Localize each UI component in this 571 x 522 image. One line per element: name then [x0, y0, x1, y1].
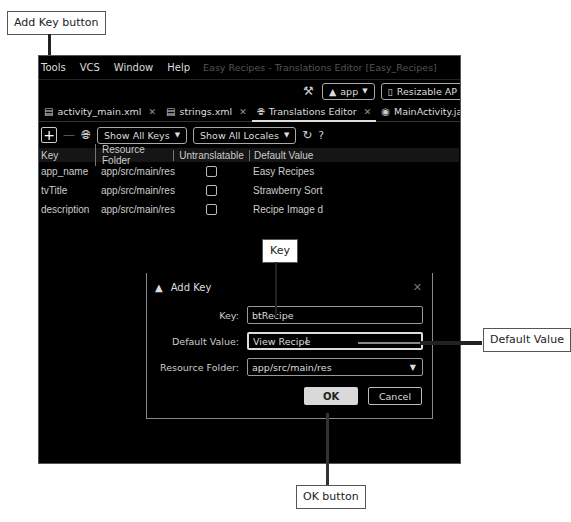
- chevron-down-icon: ▼: [284, 131, 289, 139]
- tab-label: Translations Editor: [269, 106, 357, 117]
- plus-icon: +: [43, 128, 55, 142]
- globe-icon: 🌐︎: [257, 106, 265, 118]
- refresh-icon[interactable]: ↻: [302, 128, 312, 142]
- key-input-value: btRecipe: [252, 310, 294, 321]
- callout-key: Key: [262, 239, 298, 263]
- close-icon[interactable]: ✕: [149, 107, 157, 117]
- close-icon[interactable]: ✕: [413, 281, 422, 294]
- resource-folder-row: Resource Folder: app/src/main/res ▼: [147, 357, 432, 377]
- cell-default-value[interactable]: Easy Recipes: [249, 166, 323, 177]
- add-key-button[interactable]: +: [41, 127, 57, 143]
- cell-untranslatable: [173, 204, 249, 215]
- callout-add-key-button: Add Key button: [7, 11, 106, 35]
- show-locales-dropdown[interactable]: Show All Locales ▼: [193, 127, 296, 144]
- default-value-row: Default Value: View Recipe I: [147, 331, 432, 351]
- table-row[interactable]: tvTitle app/src/main/res Strawberry Sort: [39, 181, 459, 200]
- values-file-icon: ▤: [166, 106, 175, 117]
- key-label: Key:: [147, 310, 247, 321]
- key-input[interactable]: btRecipe: [247, 306, 423, 324]
- tab-translations-editor[interactable]: 🌐︎ Translations Editor ✕: [252, 102, 376, 121]
- window-title: Easy Recipes - Translations Editor [Easy…: [203, 62, 437, 73]
- chevron-down-icon: ▼: [410, 363, 416, 372]
- resource-folder-select[interactable]: app/src/main/res ▼: [247, 358, 423, 376]
- dialog-header: ▲ Add Key ✕: [155, 279, 422, 295]
- ok-button[interactable]: OK: [304, 387, 358, 405]
- menu-bar: Tools VCS Window Help Easy Recipes - Tra…: [39, 56, 460, 80]
- cell-untranslatable: [173, 185, 249, 196]
- chevron-down-icon: ▼: [175, 131, 180, 139]
- show-locales-label: Show All Locales: [200, 130, 279, 141]
- column-header-untranslatable[interactable]: Untranslatable: [173, 150, 249, 161]
- close-icon[interactable]: ✕: [364, 107, 372, 117]
- menu-tools[interactable]: Tools: [39, 62, 73, 73]
- leader-line-default-value-thick: [420, 341, 482, 345]
- run-config-dropdown[interactable]: ▲ app ▼: [322, 83, 375, 100]
- remove-key-button[interactable]: —: [63, 128, 75, 142]
- add-locale-icon[interactable]: 🌐︎: [81, 128, 91, 142]
- show-keys-dropdown[interactable]: Show All Keys ▼: [97, 127, 187, 144]
- device-icon: ▯: [388, 86, 393, 97]
- table-row[interactable]: description app/src/main/res Recipe Imag…: [39, 200, 459, 219]
- tab-label: activity_main.xml: [57, 106, 141, 117]
- default-value-input[interactable]: View Recipe I: [247, 332, 423, 350]
- hammer-icon[interactable]: ⚒: [303, 84, 314, 98]
- tab-activity-main[interactable]: ▤ activity_main.xml ✕: [39, 102, 161, 121]
- column-header-default-value[interactable]: Default Value: [249, 150, 323, 161]
- untranslatable-checkbox[interactable]: [206, 185, 217, 196]
- show-keys-label: Show All Keys: [104, 130, 170, 141]
- translations-table: Key Resource Folder Untranslatable Defau…: [39, 148, 459, 219]
- chevron-down-icon: ▼: [362, 87, 367, 95]
- dialog-title: Add Key: [171, 282, 212, 293]
- editor-tabs: ▤ activity_main.xml ✕ ▤ strings.xml ✕ 🌐︎…: [39, 102, 460, 122]
- tab-strings[interactable]: ▤ strings.xml ✕: [161, 102, 252, 121]
- default-value-label: Default Value:: [147, 336, 247, 347]
- java-class-icon: ◉: [381, 106, 390, 117]
- column-header-resource-folder[interactable]: Resource Folder: [95, 144, 173, 166]
- menu-window[interactable]: Window: [107, 62, 160, 73]
- untranslatable-checkbox[interactable]: [206, 166, 217, 177]
- run-config-label: app: [340, 86, 358, 97]
- tab-main-activity[interactable]: ◉ MainActivity.java ✕: [376, 102, 461, 121]
- cell-key[interactable]: description: [39, 204, 95, 215]
- menu-vcs[interactable]: VCS: [73, 62, 107, 73]
- tab-label: strings.xml: [180, 106, 233, 117]
- translations-toolbar: + — 🌐︎ Show All Keys ▼ Show All Locales …: [39, 124, 460, 146]
- leader-line-key: [275, 262, 277, 318]
- callout-default-value: Default Value: [483, 328, 571, 352]
- layout-file-icon: ▤: [44, 106, 53, 117]
- cell-default-value[interactable]: Strawberry Sort: [249, 185, 323, 196]
- key-field-row: Key: btRecipe: [147, 305, 432, 325]
- cancel-button[interactable]: Cancel: [368, 387, 422, 405]
- device-label: Resizable AP: [397, 86, 457, 97]
- cell-folder[interactable]: app/src/main/res: [95, 166, 173, 177]
- help-icon[interactable]: ?: [318, 129, 324, 142]
- device-dropdown[interactable]: ▯ Resizable AP: [381, 83, 461, 100]
- android-icon: ▲: [329, 86, 336, 97]
- resource-folder-label: Resource Folder:: [147, 362, 247, 373]
- column-header-key[interactable]: Key: [39, 150, 95, 161]
- callout-ok-button: OK button: [296, 485, 366, 509]
- resource-folder-value: app/src/main/res: [252, 362, 332, 373]
- main-toolbar: ⚒ ▲ app ▼ ▯ Resizable AP: [39, 80, 460, 102]
- menu-help[interactable]: Help: [160, 62, 197, 73]
- default-value-input-value: View Recipe: [253, 336, 310, 347]
- ide-window: Tools VCS Window Help Easy Recipes - Tra…: [38, 55, 461, 464]
- text-cursor-icon: I: [305, 335, 308, 348]
- add-key-dialog: ▲ Add Key ✕ Key: btRecipe Default Value:…: [146, 273, 433, 419]
- leader-line-ok-button: [326, 413, 329, 486]
- table-header: Key Resource Folder Untranslatable Defau…: [39, 148, 459, 162]
- untranslatable-checkbox[interactable]: [206, 204, 217, 215]
- cell-key[interactable]: app_name: [39, 166, 95, 177]
- android-icon: ▲: [155, 282, 163, 293]
- cell-key[interactable]: tvTitle: [39, 185, 95, 196]
- tab-label: MainActivity.java: [394, 106, 461, 117]
- close-icon[interactable]: ✕: [239, 107, 247, 117]
- cell-untranslatable: [173, 166, 249, 177]
- dialog-buttons: OK Cancel: [304, 387, 422, 405]
- cell-folder[interactable]: app/src/main/res: [95, 204, 173, 215]
- cell-folder[interactable]: app/src/main/res: [95, 185, 173, 196]
- cell-default-value[interactable]: Recipe Image d: [249, 204, 323, 215]
